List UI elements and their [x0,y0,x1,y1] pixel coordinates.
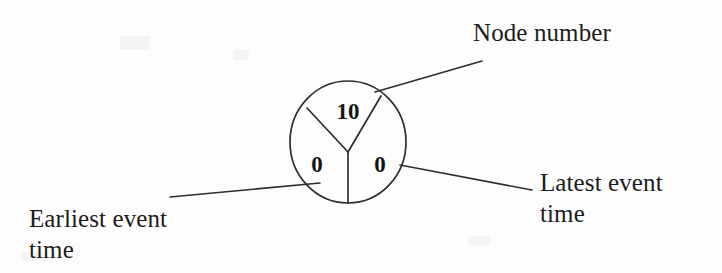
latest-event-time-value: 0 [374,152,386,177]
label-earliest-event-time: Earliest event time [29,204,167,265]
leader-line-earliest-event-time [170,183,320,197]
leader-line-latest-event-time [400,165,532,190]
label-latest-event-time: Latest event time [540,168,663,229]
label-node-number: Node number [473,18,611,49]
cpm-node-diagram: 10 0 0 Node number Earliest event time L… [0,0,722,273]
node-number-value: 10 [337,99,360,124]
leader-line-node-number [375,61,482,92]
earliest-event-time-value: 0 [311,152,323,177]
